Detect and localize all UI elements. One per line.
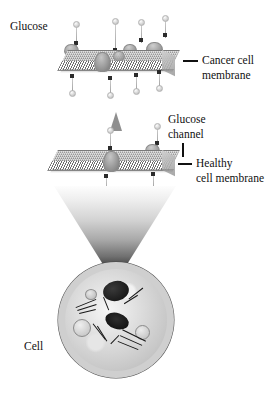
glucose-ball-icon bbox=[154, 123, 161, 130]
glucose-molecule-between bbox=[69, 74, 76, 94]
glucose-square-icon bbox=[108, 76, 112, 80]
glucose-molecule-top bbox=[162, 16, 169, 38]
healthy-membrane-label-line1: Healthy bbox=[196, 157, 232, 170]
glucose-ball-icon bbox=[73, 21, 80, 28]
glucose-molecule-between bbox=[133, 73, 140, 92]
glucose-ball-icon bbox=[107, 127, 114, 134]
glucose-ball-icon bbox=[156, 85, 163, 92]
glucose-ball-icon bbox=[162, 15, 169, 22]
glucose-molecule-top bbox=[138, 20, 145, 43]
glucose-molecule-above-healthy bbox=[154, 124, 161, 146]
healthy-membrane-leader-line bbox=[178, 163, 192, 165]
glucose-square-icon bbox=[157, 70, 161, 74]
glucose-ball-icon bbox=[112, 18, 119, 25]
glucose-channel-icon bbox=[113, 51, 125, 61]
glucose-channel-pointer-line bbox=[182, 143, 184, 157]
glucose-square-icon bbox=[163, 33, 167, 37]
glucose-ball-icon bbox=[69, 90, 76, 97]
glucose-molecule-top bbox=[73, 22, 80, 46]
glucose-molecule-above-healthy bbox=[107, 128, 114, 150]
glucose-label: Glucose bbox=[10, 20, 48, 33]
cell-membrane-rim bbox=[58, 262, 174, 378]
magnification-cone bbox=[54, 186, 176, 268]
glucose-channel-label-line1: Glucose bbox=[168, 113, 206, 126]
glucose-channel-icon bbox=[94, 52, 111, 72]
glucose-square-icon bbox=[134, 73, 138, 77]
glucose-molecule-between bbox=[156, 70, 163, 89]
glucose-ball-icon bbox=[138, 19, 145, 26]
glucose-square-icon bbox=[108, 146, 112, 150]
glucose-channel-icon bbox=[103, 151, 120, 172]
cancer-membrane-label-line1: Cancer cell bbox=[202, 54, 254, 67]
glucose-molecule-between bbox=[107, 76, 114, 96]
glucose-square-icon bbox=[151, 172, 155, 176]
glucose-molecule-top bbox=[112, 19, 119, 53]
glucose-ball-icon bbox=[107, 92, 114, 99]
cancer-membrane-leader-line bbox=[183, 60, 198, 62]
glucose-ball-icon bbox=[133, 88, 140, 95]
cell-label: Cell bbox=[24, 340, 43, 353]
glucose-square-icon bbox=[139, 38, 143, 42]
figure-canvas: Glucose Cancer cell membrane bbox=[0, 0, 279, 404]
cancer-membrane-label-line2: membrane bbox=[202, 69, 251, 82]
glucose-square-icon bbox=[104, 174, 108, 178]
glucose-channel-label-line2: channel bbox=[168, 128, 204, 141]
glucose-square-icon bbox=[70, 74, 74, 78]
healthy-membrane-label-line2: cell membrane bbox=[196, 172, 264, 185]
cell-illustration bbox=[58, 262, 174, 378]
healthy-cell-membrane bbox=[52, 150, 174, 174]
